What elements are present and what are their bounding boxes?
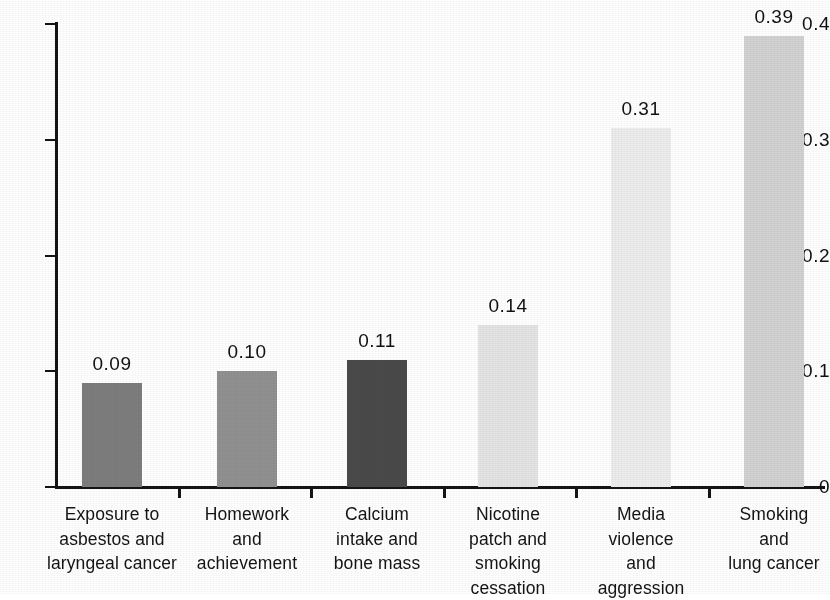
- y-axis-tick: [45, 23, 56, 25]
- x-axis-category-label: Homework and achievement: [172, 502, 322, 576]
- x-axis-category-label: Nicotine patch and smoking cessation: [433, 502, 583, 600]
- bar: 0.11: [347, 360, 407, 487]
- x-axis-category-label: Calcium intake and bone mass: [302, 502, 452, 576]
- x-axis-tick: [443, 488, 446, 498]
- bar-fill: [347, 360, 407, 487]
- bar-fill: [478, 325, 538, 487]
- x-axis-tick: [310, 488, 313, 498]
- x-axis-tick: [178, 488, 181, 498]
- x-axis-category-label: Exposure to asbestos and laryngeal cance…: [37, 502, 187, 576]
- bar-fill: [611, 128, 671, 487]
- bar-fill: [217, 371, 277, 487]
- bar-fill: [744, 36, 804, 487]
- bar-value-label: 0.39: [704, 7, 830, 26]
- bar-value-label: 0.11: [307, 331, 447, 350]
- bar: 0.31: [611, 128, 671, 487]
- y-axis-tick: [45, 255, 56, 257]
- bar: 0.14: [478, 325, 538, 487]
- bar-value-label: 0.31: [571, 99, 711, 118]
- bar-value-label: 0.14: [438, 296, 578, 315]
- bar-value-label: 0.10: [177, 342, 317, 361]
- y-axis-tick: [45, 139, 56, 141]
- x-axis-category-label: Smoking and lung cancer: [699, 502, 830, 576]
- bar: 0.10: [217, 371, 277, 487]
- y-axis-tick: [45, 486, 56, 488]
- bar: 0.39: [744, 36, 804, 487]
- bar-value-label: 0.09: [42, 354, 182, 373]
- x-axis-category-label: Media violence and aggression: [566, 502, 716, 600]
- x-axis-tick: [708, 488, 711, 498]
- bar: 0.09: [82, 383, 142, 487]
- x-axis-tick: [575, 488, 578, 498]
- bar-fill: [82, 383, 142, 487]
